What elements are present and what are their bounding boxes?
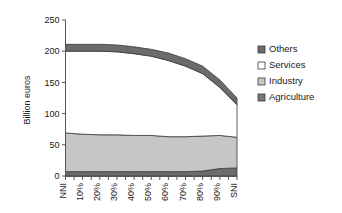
y-tick-label: 250 — [44, 15, 59, 25]
x-tick-label: 10% — [75, 183, 85, 201]
area-series-industry — [66, 133, 238, 172]
y-tick-label: 100 — [44, 109, 59, 119]
y-axis-title: Billion euros — [22, 75, 32, 125]
x-tick-label: 90% — [212, 183, 222, 201]
legend-label-services: Services — [269, 59, 306, 70]
legend-label-agriculture: Agriculture — [269, 91, 314, 102]
x-tick-label: 80% — [195, 183, 205, 201]
x-axis-ticks — [66, 176, 238, 180]
y-tick-label: 150 — [44, 78, 59, 88]
x-tick-label: SNI — [229, 183, 239, 198]
legend-label-others: Others — [269, 43, 298, 54]
y-tick-label: 0 — [54, 171, 59, 181]
stacked-area-chart: 050100150200250 NNI10%20%30%40%50%60%70%… — [0, 0, 342, 213]
x-tick-label: NNI — [58, 183, 68, 199]
x-tick-label: 60% — [160, 183, 170, 201]
x-tick-label: 70% — [178, 183, 188, 201]
y-tick-label: 200 — [44, 46, 59, 56]
chart-canvas: 050100150200250 NNI10%20%30%40%50%60%70%… — [0, 0, 342, 213]
x-tick-label: 20% — [92, 183, 102, 201]
x-tick-label: 30% — [109, 183, 119, 201]
legend-swatch-industry — [258, 78, 265, 85]
x-tick-label: 40% — [126, 183, 136, 201]
legend-swatch-agriculture — [258, 94, 265, 101]
x-tick-label: 50% — [143, 183, 153, 201]
legend-swatch-others — [258, 46, 265, 53]
legend-label-industry: Industry — [269, 75, 303, 86]
legend-swatch-services — [258, 62, 265, 69]
y-tick-label: 50 — [49, 140, 59, 150]
